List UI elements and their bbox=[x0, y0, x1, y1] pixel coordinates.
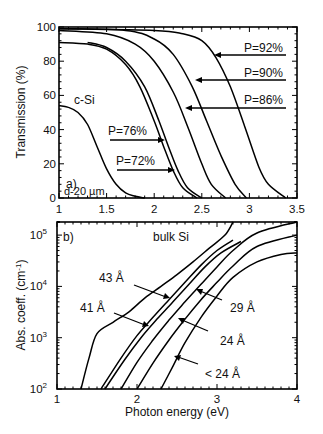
curve-24- bbox=[137, 235, 297, 389]
label-c-si: c-Si bbox=[74, 93, 95, 107]
arrow-head-29A bbox=[196, 289, 203, 295]
label-p90: P=90% bbox=[244, 66, 283, 80]
y-tick-label: 80 bbox=[43, 55, 56, 67]
label-p92: P=92% bbox=[244, 41, 283, 55]
arrow-head-p90 bbox=[195, 77, 202, 83]
curve-p-86- bbox=[59, 30, 226, 198]
panel-b: Abs. coeff. (cm-1) Photon energy (eV) 12… bbox=[14, 222, 301, 419]
y-tick-label: 102 bbox=[30, 381, 48, 395]
curve-p-72- bbox=[59, 42, 197, 198]
y-tick-label: 100 bbox=[37, 21, 56, 33]
panel-a-y-tick-labels: 020406080100 bbox=[37, 21, 56, 204]
arrow-29A bbox=[200, 291, 222, 300]
x-tick-label: 2 bbox=[151, 203, 157, 215]
x-tick-label: 2 bbox=[134, 393, 140, 405]
x-tick-label: 1 bbox=[54, 393, 60, 405]
label-panel-b: b) bbox=[63, 230, 74, 244]
label-thickness: d-20 µm bbox=[64, 185, 105, 197]
y-tick-label: 103 bbox=[30, 330, 48, 344]
label-41A: 41 Å bbox=[80, 300, 105, 315]
arrow-head-43A bbox=[163, 293, 170, 299]
label-24A: 24 Å bbox=[220, 333, 245, 348]
x-tick-label: 3 bbox=[246, 203, 252, 215]
x-tick-label: 3 bbox=[214, 393, 220, 405]
y-axis-label-abs-coeff: Abs. coeff. (cm-1) bbox=[14, 260, 28, 351]
label-p72: P=72% bbox=[116, 154, 155, 168]
label-lt24A: < 24 Å bbox=[205, 366, 240, 381]
figure: Transmission (%) 11.522.533.5 0204060801… bbox=[0, 0, 323, 434]
panel-a: Transmission (%) 11.522.533.5 0204060801… bbox=[14, 21, 305, 215]
x-tick-label: 1 bbox=[56, 203, 62, 215]
y-tick-label: 104 bbox=[30, 278, 48, 292]
y-tick-label: 105 bbox=[30, 227, 48, 241]
panel-b-y-tick-labels: 102103104105 bbox=[30, 227, 48, 395]
y-axis-label-transmission: Transmission (%) bbox=[14, 66, 28, 159]
panel-b-x-tick-labels: 1234 bbox=[54, 393, 301, 405]
label-bulk-si: bulk Si bbox=[153, 230, 189, 244]
x-tick-label: 2.5 bbox=[194, 203, 210, 215]
label-43A: 43 Å bbox=[99, 270, 124, 285]
label-p76: P=76% bbox=[108, 124, 147, 138]
label-p86: P=86% bbox=[244, 93, 283, 107]
y-tick-label: 40 bbox=[43, 124, 56, 136]
panel-a-x-tick-labels: 11.522.533.5 bbox=[56, 203, 305, 215]
label-29A: 29 Å bbox=[230, 300, 255, 315]
y-tick-label: 60 bbox=[43, 89, 56, 101]
y-tick-label: 0 bbox=[50, 192, 56, 204]
x-tick-label: 3.5 bbox=[289, 203, 305, 215]
x-axis-label-photon-energy: Photon energy (eV) bbox=[125, 405, 229, 419]
x-tick-label: 1.5 bbox=[99, 203, 115, 215]
arrow-head-lt24A bbox=[174, 355, 181, 361]
x-tick-label: 4 bbox=[294, 393, 301, 405]
arrow-24A bbox=[182, 320, 208, 331]
arrow-head-p86 bbox=[185, 105, 192, 111]
arrow-lt24A bbox=[178, 357, 198, 364]
absorption-curves bbox=[81, 222, 297, 389]
y-tick-label: 20 bbox=[43, 158, 56, 170]
